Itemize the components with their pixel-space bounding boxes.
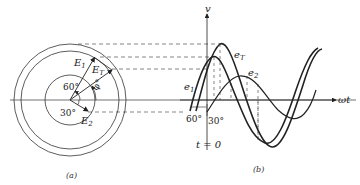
phasor-waveform-figure: E1 ET E2 60° 30° φ° (a) [0, 0, 360, 185]
label-et-curve: eT [234, 49, 246, 62]
caption-b: (b) [253, 165, 264, 174]
label-et: ET [91, 64, 105, 77]
curve-et [196, 44, 322, 147]
angle-arc-30 [78, 100, 79, 105]
wt-axis-label: ωt [338, 94, 351, 105]
phase-label-60: 60° [186, 114, 202, 124]
label-e1: E1 [73, 57, 86, 70]
angle-label-phi: φ° [90, 78, 104, 92]
t0-label: t = 0 [196, 139, 222, 150]
label-e2: E2 [80, 115, 93, 128]
phase-label-30: 30° [208, 116, 224, 126]
caption-a: (a) [66, 171, 77, 180]
label-e1-curve: e1 [184, 81, 194, 94]
angle-label-30: 30° [60, 108, 76, 118]
panel-b-waveforms: 60° 30° v ωt t = 0 e1 eT e2 (b) [180, 3, 351, 174]
angle-label-60: 60° [63, 82, 79, 92]
v-axis-label: v [205, 3, 211, 14]
